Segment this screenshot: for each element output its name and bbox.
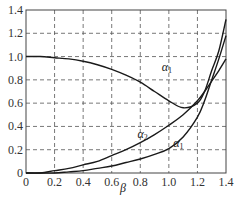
x-tick-label: 0.8 [133, 175, 148, 189]
y-tick-label: 0.6 [8, 96, 23, 110]
line-chart: 00.20.40.60.81.01.21.4 00.20.40.60.81.01… [0, 0, 235, 199]
curve-label: α1 [162, 60, 172, 75]
x-axis-label: β [119, 181, 126, 195]
y-tick-label: 1.2 [8, 26, 23, 40]
y-tick-label: 0.2 [8, 143, 23, 157]
grid-lines [26, 10, 226, 173]
x-tick-label: 0.4 [76, 175, 91, 189]
y-axis-ticks: 00.20.40.60.81.01.21.4 [8, 3, 23, 180]
curve-label: α2 [137, 127, 147, 142]
y-tick-label: 1.0 [8, 50, 23, 64]
curve-series-1 [26, 59, 226, 173]
y-tick-label: 0.8 [8, 73, 23, 87]
x-tick-label: 0 [23, 175, 29, 189]
y-tick-label: 0 [17, 166, 23, 180]
x-tick-label: 1.4 [219, 175, 234, 189]
x-axis-ticks: 00.20.40.60.81.01.21.4 [23, 175, 234, 189]
curve-series-0 [26, 19, 226, 108]
x-tick-label: 1.2 [190, 175, 205, 189]
x-tick-label: 0.2 [47, 175, 62, 189]
x-tick-label: 0.6 [104, 175, 119, 189]
y-tick-label: 0.4 [8, 119, 23, 133]
x-tick-label: 1.0 [161, 175, 176, 189]
plot-frame [26, 10, 226, 173]
y-tick-label: 1.4 [8, 3, 23, 17]
